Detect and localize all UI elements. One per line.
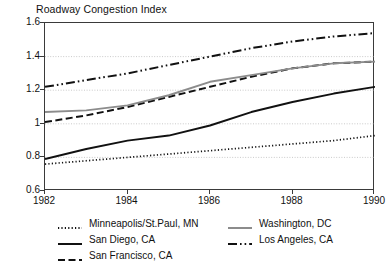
y-axis-tick-label: 1.6	[6, 17, 40, 27]
y-axis-tick	[40, 156, 44, 157]
y-axis-tick-label: 1	[6, 118, 40, 128]
y-axis-tick-label: 1.2	[6, 84, 40, 94]
y-axis-tick	[40, 22, 44, 23]
x-axis-tick	[44, 190, 45, 194]
legend-line-swatch	[58, 219, 82, 229]
x-axis-tick-label: 1984	[115, 195, 137, 206]
legend-item[interactable]: San Francisco, CA	[58, 248, 199, 263]
x-axis-tick-label: 1988	[280, 195, 302, 206]
x-axis-tick	[209, 190, 210, 194]
x-axis-tick-label: 1986	[198, 195, 220, 206]
legend-label: Los Angeles, CA	[259, 235, 333, 245]
legend-line-swatch	[228, 235, 252, 245]
legend-item[interactable]: Minneapolis/St.Paul, MN	[58, 216, 199, 231]
x-axis-labels: 19821984198619881990	[0, 193, 391, 209]
legend-item[interactable]: Washington, DC	[228, 216, 333, 231]
legend-item[interactable]: San Diego, CA	[58, 232, 199, 247]
legend-line-swatch	[58, 235, 82, 245]
legend-line-swatch	[58, 251, 82, 261]
x-axis-tick	[373, 190, 374, 194]
series-svg	[45, 23, 375, 191]
y-axis-tick-label: 1.4	[6, 51, 40, 61]
series-line	[45, 33, 375, 87]
legend-item[interactable]: Los Angeles, CA	[228, 232, 333, 247]
y-axis-tick	[40, 123, 44, 124]
legend-label: San Diego, CA	[89, 235, 155, 245]
chart-title: Roadway Congestion Index	[36, 3, 167, 15]
legend-column-right: Washington, DCLos Angeles, CA	[228, 216, 333, 248]
legend-label: San Francisco, CA	[89, 251, 172, 261]
legend-label: Washington, DC	[259, 219, 331, 229]
series-line	[45, 62, 375, 122]
legend-column-left: Minneapolis/St.Paul, MNSan Diego, CASan …	[58, 216, 199, 264]
legend-line-swatch	[228, 219, 252, 229]
x-axis-tick	[292, 190, 293, 194]
series-line	[45, 136, 375, 165]
series-line	[45, 87, 375, 159]
y-axis-tick	[40, 56, 44, 57]
y-axis-tick-label: 0.8	[6, 151, 40, 161]
x-axis-tick	[127, 190, 128, 194]
chart-legend: Minneapolis/St.Paul, MNSan Diego, CASan …	[0, 216, 391, 266]
x-axis-tick-label: 1990	[363, 195, 385, 206]
legend-label: Minneapolis/St.Paul, MN	[89, 219, 199, 229]
chart-container: Roadway Congestion Index 1.61.41.210.80.…	[0, 0, 391, 266]
y-axis-tick	[40, 89, 44, 90]
x-axis-tick-label: 1982	[33, 195, 55, 206]
plot-area	[44, 22, 374, 190]
